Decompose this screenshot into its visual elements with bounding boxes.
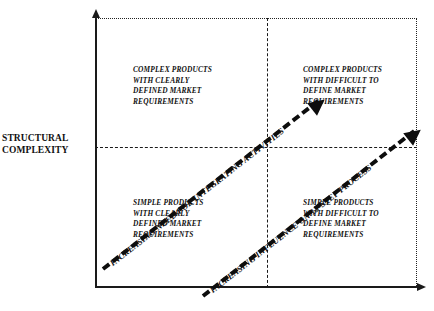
y-axis-label-line-2: COMPLEXITY: [2, 145, 82, 157]
diagram-canvas: STRUCTURAL COMPLEXITY COMPLEX PRODUCTS W…: [0, 0, 434, 311]
quadrant-top-left-line-4: REQUIREMENTS: [133, 97, 212, 108]
y-axis-label-line-1: STRUCTURAL: [2, 133, 82, 145]
x-axis-arrow-icon: [417, 283, 426, 291]
quadrant-top-right-line-1: COMPLEX PRODUCTS: [303, 65, 382, 76]
right-dotted-border: [416, 18, 417, 288]
top-dotted-border: [95, 18, 417, 19]
quadrant-top-left-line-2: WITH CLEARLY: [133, 76, 212, 87]
trend-arrow-head-icon: [403, 123, 425, 145]
y-axis-arrow-icon: [92, 9, 100, 18]
y-axis-label: STRUCTURAL COMPLEXITY: [2, 133, 82, 156]
quadrant-bottom-right-line-4: REQUIREMENTS: [303, 230, 379, 241]
plot-area: COMPLEX PRODUCTS WITH CLEARLY DEFINED MA…: [95, 18, 417, 288]
quadrant-top-left-line-1: COMPLEX PRODUCTS: [133, 65, 212, 76]
quadrant-top-left-line-3: DEFINED MARKET: [133, 86, 212, 97]
quadrant-bottom-right-line-3: DEFINE MARKET: [303, 219, 379, 230]
quadrant-top-right-line-2: WITH DIFFICULT TO: [303, 76, 382, 87]
quadrant-top-left: COMPLEX PRODUCTS WITH CLEARLY DEFINED MA…: [133, 65, 212, 107]
x-axis-line: [95, 286, 417, 288]
y-axis-line: [95, 18, 97, 288]
